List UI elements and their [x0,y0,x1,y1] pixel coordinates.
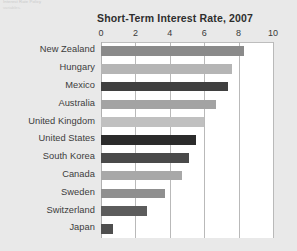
category-label-south-korea: South Korea [43,151,95,161]
bar-rows: New ZealandHungaryMexicoAustraliaUnited … [0,42,297,238]
bar-row: United States [0,131,297,149]
x-tick-label-6: 6 [194,28,214,38]
bar-row: Australia [0,95,297,113]
category-label-australia: Australia [58,98,95,108]
x-tick-label-0: 0 [91,28,111,38]
bar-united-kingdom [101,117,204,127]
x-tick-label-8: 8 [229,28,249,38]
bar-japan [101,224,113,234]
category-label-sweden: Sweden [61,187,95,197]
category-label-canada: Canada [62,169,95,179]
category-label-united-kingdom: United Kingdom [28,116,95,126]
bar-hungary [101,64,232,74]
bar-row: Canada [0,167,297,185]
category-label-united-states: United States [39,133,95,143]
chart-figure: Interest Rate Policy variables. Short-Te… [0,0,297,251]
category-label-hungary: Hungary [60,62,96,72]
category-label-new-zealand: New Zealand [40,44,95,54]
bar-row: Hungary [0,60,297,78]
bar-row: South Korea [0,149,297,167]
bar-canada [101,171,182,181]
bar-sweden [101,189,165,199]
bar-row: Sweden [0,184,297,202]
x-tick-label-4: 4 [160,28,180,38]
bar-row: New Zealand [0,42,297,60]
x-tick-label-10: 10 [263,28,283,38]
chart-title: Short-Term Interest Rate, 2007 [60,12,290,24]
bar-united-states [101,135,196,145]
bar-row: United Kingdom [0,113,297,131]
bar-row: Japan [0,220,297,238]
bar-switzerland [101,206,147,216]
bar-australia [101,100,216,110]
x-tick-label-2: 2 [125,28,145,38]
category-label-switzerland: Switzerland [46,205,95,215]
bar-row: Switzerland [0,202,297,220]
category-label-mexico: Mexico [65,80,95,90]
category-label-japan: Japan [69,222,95,232]
bar-mexico [101,82,228,92]
bar-south-korea [101,153,189,163]
bar-row: Mexico [0,78,297,96]
corner-note-line-2: variables. [3,5,21,10]
bar-new-zealand [101,46,244,56]
corner-note-line-1: Interest Rate Policy [3,0,41,5]
